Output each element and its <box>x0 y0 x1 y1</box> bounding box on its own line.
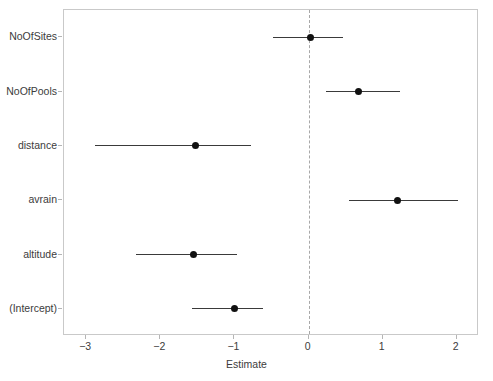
x-axis-tick-label: 1 <box>379 341 385 352</box>
y-axis-tick-label: distance <box>18 140 57 151</box>
estimate-point <box>355 88 362 95</box>
x-axis-tick-label: 0 <box>305 341 311 352</box>
x-axis-tick-label: 2 <box>453 341 459 352</box>
estimate-point <box>394 197 401 204</box>
x-axis-tick-mark <box>308 335 309 339</box>
y-axis-tick-mark <box>58 254 62 255</box>
confidence-interval-line <box>136 254 237 255</box>
confidence-interval-line <box>326 91 400 92</box>
estimate-point <box>190 251 197 258</box>
y-axis-tick-mark <box>58 36 62 37</box>
x-axis-tick-mark <box>85 335 86 339</box>
x-axis-tick-label: −2 <box>153 341 165 352</box>
x-axis-tick-label: −1 <box>227 341 239 352</box>
y-axis-tick-label: NoOfPools <box>6 85 57 96</box>
y-axis-tick-label: altitude <box>23 248 57 259</box>
y-axis-tick-mark <box>58 308 62 309</box>
x-axis-tick-mark <box>382 335 383 339</box>
x-axis-tick-mark <box>456 335 457 339</box>
estimate-point <box>307 34 314 41</box>
y-axis-tick-mark <box>58 145 62 146</box>
zero-reference-line <box>309 10 310 334</box>
x-axis-tick-mark <box>233 335 234 339</box>
x-axis-tick-label: −3 <box>79 341 91 352</box>
y-axis-tick-label: (Intercept) <box>9 303 57 314</box>
y-axis-tick-mark <box>58 91 62 92</box>
estimate-point <box>231 305 238 312</box>
confidence-interval-line <box>349 200 459 201</box>
confidence-interval-line <box>95 145 251 146</box>
estimate-point <box>192 142 199 149</box>
y-axis-labels: NoOfSitesNoOfPoolsdistanceavrainaltitude… <box>0 9 57 335</box>
y-axis-tick-label: NoOfSites <box>9 31 57 42</box>
x-axis-tick-mark <box>159 335 160 339</box>
coefficient-plot: NoOfSitesNoOfPoolsdistanceavrainaltitude… <box>0 0 493 381</box>
plot-panel <box>63 9 478 335</box>
x-axis-title: Estimate <box>0 358 493 370</box>
y-axis-tick-label: avrain <box>28 194 57 205</box>
confidence-interval-line <box>192 308 263 309</box>
y-axis-tick-mark <box>58 199 62 200</box>
